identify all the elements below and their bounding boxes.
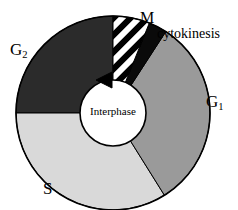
center-label-interphase: Interphase	[79, 106, 147, 117]
sector-label-m: M	[140, 10, 154, 26]
sector-label-g1: G1	[206, 93, 224, 110]
sector-label-s: S	[43, 180, 52, 197]
sector-label-g1-text: G	[206, 92, 218, 111]
cell-cycle-figure: THE CELL CYCLE G2 G1 S M	[0, 0, 238, 210]
sector-label-cytokinesis: cytokinesis	[157, 27, 220, 41]
sector-label-g2: G2	[10, 41, 28, 58]
sector-label-g1-subscript: 1	[218, 101, 223, 112]
sector-label-g2-subscript: 2	[22, 49, 27, 60]
sector-label-g2-text: G	[10, 40, 22, 59]
